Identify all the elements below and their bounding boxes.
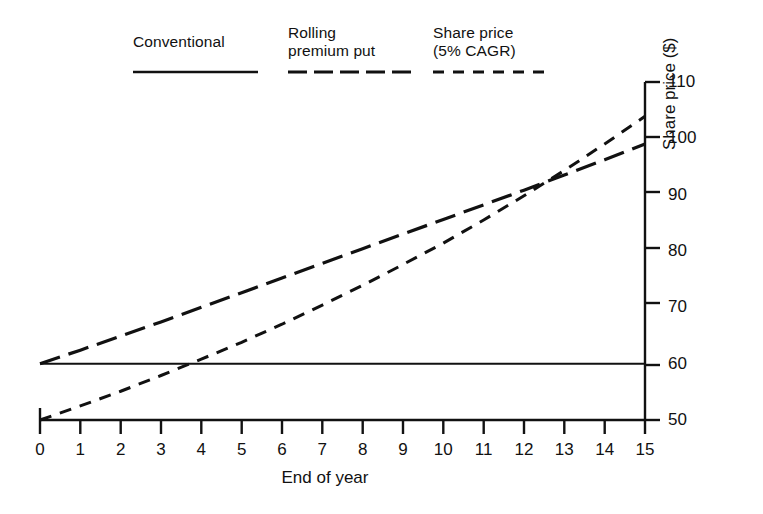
x-axis-title: End of year	[0, 468, 650, 488]
legend-label-conventional: Conventional	[133, 33, 225, 51]
legend-label-rolling-premium-put: Rolling premium put	[288, 24, 375, 60]
y-tick-label: 90	[668, 185, 687, 205]
y-tick-label: 50	[668, 410, 687, 430]
y-tick-label: 70	[668, 297, 687, 317]
x-tick-label: 14	[585, 440, 625, 460]
chart-figure: Conventional Rolling premium put Share p…	[0, 0, 763, 514]
x-tick-label: 9	[383, 440, 423, 460]
x-tick-label: 2	[101, 440, 141, 460]
x-tick-label: 11	[464, 440, 504, 460]
x-tick-label: 15	[625, 440, 665, 460]
x-tick-label: 6	[262, 440, 302, 460]
y-tick-label: 80	[668, 241, 687, 261]
x-tick-label: 3	[141, 440, 181, 460]
x-tick-label: 13	[544, 440, 584, 460]
x-tick-label: 10	[423, 440, 463, 460]
x-tick-label: 7	[302, 440, 342, 460]
legend-label-share-price: Share price (5% CAGR)	[433, 24, 516, 60]
series-line-share-price	[40, 116, 645, 420]
y-tick-label: 60	[668, 354, 687, 374]
y-tick-label: 110	[668, 72, 695, 92]
x-tick-label: 4	[181, 440, 221, 460]
x-tick-label: 0	[20, 440, 60, 460]
x-tick-label: 5	[222, 440, 262, 460]
x-tick-marks	[40, 420, 645, 434]
x-tick-label: 1	[60, 440, 100, 460]
x-tick-label: 12	[504, 440, 544, 460]
y-tick-label: 100	[668, 128, 696, 148]
x-tick-label: 8	[343, 440, 383, 460]
chart-canvas	[0, 0, 763, 514]
